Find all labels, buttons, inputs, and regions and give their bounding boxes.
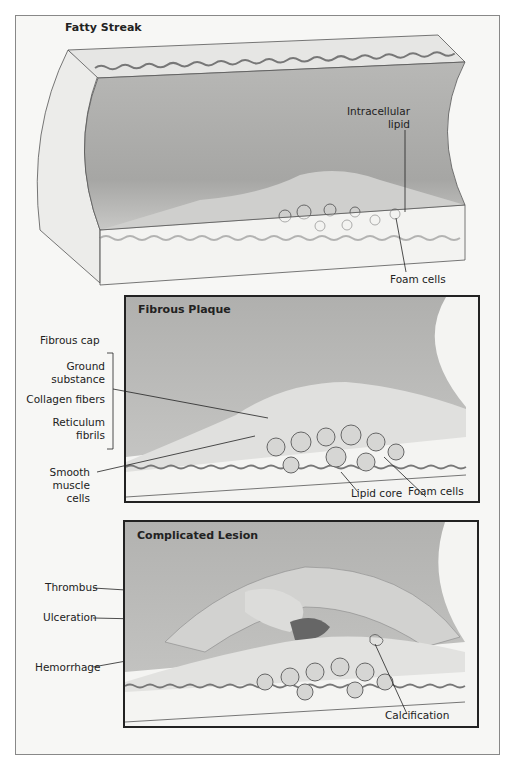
fatty-streak-title: Fatty Streak — [65, 21, 142, 34]
fibrous-plaque-title: Fibrous Plaque — [138, 303, 231, 316]
complicated-lesion-panel: Complicated Lesion Calcification — [123, 520, 479, 728]
collagen-fibers-label: Collagen fibers — [20, 393, 105, 406]
lipid-core-label: Lipid core — [351, 487, 402, 500]
reticulum-line1: Reticulum — [52, 416, 105, 428]
intracellular-label-line2: lipid — [388, 118, 410, 130]
fatty-streak-illustration — [0, 0, 508, 290]
ulceration-label: Ulceration — [43, 611, 97, 624]
intracellular-label-line1: Intracellular — [347, 105, 410, 117]
fibrous-cap-label: Fibrous cap — [40, 334, 100, 347]
foam-cells-label-2: Foam cells — [408, 485, 464, 498]
smooth-line1: Smooth — [49, 466, 90, 478]
smooth-line3: cells — [66, 492, 90, 504]
reticulum-line2: fibrils — [76, 429, 105, 441]
ground-line1: Ground — [66, 360, 105, 372]
fibrous-plaque-panel: Fibrous Plaque Foam cells Lipid core — [124, 295, 480, 503]
hemorrhage-label: Hemorrhage — [35, 661, 101, 674]
intracellular-lipid-label: Intracellular lipid — [345, 105, 410, 131]
foam-cells-label-1: Foam cells — [390, 273, 446, 286]
smooth-muscle-cells-label: Smooth muscle cells — [30, 466, 90, 505]
fibrous-plaque-illustration — [126, 297, 480, 503]
reticulum-fibrils-label: Reticulum fibrils — [30, 416, 105, 442]
calcification-label: Calcification — [385, 709, 449, 722]
thrombus-label: Thrombus — [45, 581, 98, 594]
ground-line2: substance — [51, 373, 105, 385]
ground-substance-label: Ground substance — [30, 360, 105, 386]
complicated-lesion-title: Complicated Lesion — [137, 529, 258, 542]
complicated-lesion-illustration — [125, 522, 479, 728]
smooth-line2: muscle — [52, 479, 90, 491]
